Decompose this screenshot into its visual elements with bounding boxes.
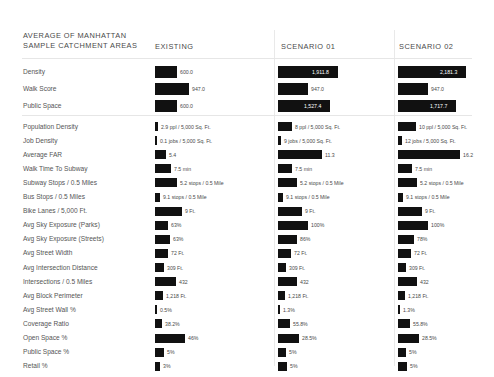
bar-avg-intersection-distance-existing [155,263,164,272]
value-walk-score-scenario-01: 947.0 [311,86,324,92]
column-header-scenario-02: SCENARIO 02 [399,42,453,51]
page-title: AVERAGE OF MANHATTAN SAMPLE CATCHMENT AR… [23,31,153,52]
bar-population-density-scenario-02 [398,122,416,131]
row-label-walk-score: Walk Score [23,85,56,92]
section-divider [22,115,472,116]
bar-retail-scenario-01 [278,362,287,371]
value-coverage-ratio-existing: 38.2% [165,321,180,327]
bar-walk-time-to-subway-scenario-01 [278,164,292,173]
value-average-far-scenario-01: 11.3 [325,152,335,158]
bar-avg-block-perimeter-scenario-02 [398,291,405,300]
bar-retail-scenario-02 [398,362,407,371]
value-walk-score-scenario-02: 947.0 [431,86,444,92]
bar-average-far-existing [155,150,166,159]
row-label-job-density: Job Density [23,137,57,144]
bar-avg-sky-exposure-streets-existing [155,235,170,244]
value-bike-lanes-5-000-ft-existing: 9 Ft. [185,208,195,214]
row-label-intersections-0-5-miles: Intersections / 0.5 Miles [23,278,92,285]
value-avg-sky-exposure-parks-existing: 63% [171,222,181,228]
value-open-space-scenario-01: 28.5% [302,335,317,341]
value-avg-street-wall-scenario-02: 1.3% [403,307,415,313]
value-bus-stops-0-5-miles-scenario-02: 9.1 stops / 0.5 Mile [406,194,450,200]
value-walk-time-to-subway-scenario-02: 7.5 min [415,166,432,172]
value-public-space-existing: 600.0 [180,103,193,109]
bar-avg-block-perimeter-existing [155,291,163,300]
value-bike-lanes-5-000-ft-scenario-01: 9 Ft. [305,208,315,214]
bar-open-space-scenario-01 [278,334,299,343]
value-bus-stops-0-5-miles-scenario-01: 9.1 stops / 0.5 Mile [286,194,330,200]
value-bus-stops-0-5-miles-existing: 9.1 stops / 0.5 Mile [163,194,207,200]
value-avg-sky-exposure-streets-existing: 63% [173,236,183,242]
value-coverage-ratio-scenario-01: 55.8% [293,321,308,327]
value-public-space-scenario-02: 1,717.7 [430,103,447,109]
row-label-walk-time-to-subway: Walk Time To Subway [23,165,88,172]
bar-public-space-existing [155,348,164,357]
row-label-avg-street-width: Avg Street Width [23,249,72,256]
value-walk-score-existing: 947.0 [192,86,205,92]
row-label-avg-sky-exposure-parks: Avg Sky Exposure (Parks) [23,221,100,228]
bar-walk-score-existing [155,83,189,95]
infographic-sheet: AVERAGE OF MANHATTAN SAMPLE CATCHMENT AR… [0,0,494,377]
value-open-space-scenario-02: 28.5% [422,335,437,341]
bar-avg-sky-exposure-streets-scenario-02 [398,235,414,244]
bar-avg-sky-exposure-streets-scenario-01 [278,235,297,244]
value-subway-stops-0-5-miles-scenario-02: 5.2 stops / 0.5 Mile [420,180,464,186]
value-intersections-0-5-miles-existing: 432 [179,279,188,285]
bar-public-space-existing [155,100,177,112]
row-label-retail: Retail % [23,362,48,369]
bar-average-far-scenario-01 [278,150,322,159]
row-label-coverage-ratio: Coverage Ratio [23,320,69,327]
bar-avg-intersection-distance-scenario-01 [278,263,286,272]
value-population-density-scenario-01: 8 ppl / 5,000 Sq. Ft. [295,124,340,130]
value-avg-intersection-distance-scenario-01: 309 Ft. [289,265,305,271]
bar-walk-score-scenario-02 [398,83,428,95]
bar-density-scenario-01 [278,66,338,78]
bar-job-density-scenario-01 [278,136,281,145]
value-average-far-existing: 5.4 [169,152,176,158]
value-public-space-scenario-01: 1,527.4 [304,103,321,109]
row-label-avg-sky-exposure-streets: Avg Sky Exposure (Streets) [23,235,104,242]
row-label-average-far: Average FAR [23,151,62,158]
bar-walk-time-to-subway-existing [155,164,171,173]
bar-intersections-0-5-miles-existing [155,277,176,286]
bar-population-density-existing [155,122,158,131]
bar-public-space-scenario-01 [278,348,286,357]
value-walk-time-to-subway-scenario-01: 7.5 min [295,166,312,172]
bar-bus-stops-0-5-miles-scenario-01 [278,193,283,202]
row-label-subway-stops-0-5-miles: Subway Stops / 0.5 Miles [23,179,97,186]
value-avg-intersection-distance-existing: 309 Ft. [167,265,183,271]
value-population-density-existing: 2.9 ppl / 5,000 Sq. Ft. [161,124,211,130]
value-avg-block-perimeter-scenario-02: 1,218 Ft. [408,293,428,299]
bar-population-density-scenario-01 [278,122,292,131]
bar-job-density-existing [155,136,157,145]
row-label-avg-block-perimeter: Avg Block Perimeter [23,292,83,299]
value-subway-stops-0-5-miles-scenario-01: 5.2 stops / 0.5 Mile [300,180,344,186]
value-avg-sky-exposure-streets-scenario-02: 78% [417,236,427,242]
value-retail-scenario-01: 5% [290,363,298,369]
bar-subway-stops-0-5-miles-scenario-01 [278,178,297,187]
bar-average-far-scenario-02 [398,150,460,159]
value-average-far-scenario-02: 16.2 [463,152,473,158]
value-intersections-0-5-miles-scenario-02: 432 [420,279,429,285]
bar-avg-sky-exposure-parks-existing [155,221,168,230]
row-label-open-space: Open Space % [23,334,67,341]
bar-job-density-scenario-02 [398,136,402,145]
value-job-density-scenario-02: 12 jobs / 5,000 Sq. Ft. [405,138,456,144]
value-avg-street-wall-scenario-01: 1.3% [283,307,295,313]
bar-avg-intersection-distance-scenario-02 [398,263,406,272]
row-label-bike-lanes-5-000-ft: Bike Lanes / 5,000 Ft. [23,207,87,214]
bar-density-existing [155,66,177,78]
bar-walk-time-to-subway-scenario-02 [398,164,412,173]
bar-avg-block-perimeter-scenario-01 [278,291,285,300]
value-intersections-0-5-miles-scenario-01: 432 [300,279,309,285]
bar-bike-lanes-5-000-ft-scenario-01 [278,207,302,216]
row-label-avg-street-wall: Avg Street Wall % [23,306,76,313]
bar-bike-lanes-5-000-ft-existing [155,207,182,216]
row-label-avg-intersection-distance: Avg Intersection Distance [23,264,98,271]
bar-coverage-ratio-scenario-01 [278,319,290,328]
bar-avg-street-wall-scenario-02 [398,305,400,314]
value-public-space-scenario-01: 5% [289,349,297,355]
value-avg-sky-exposure-streets-scenario-01: 86% [300,236,310,242]
bar-avg-street-wall-existing [155,305,157,314]
bar-avg-sky-exposure-parks-scenario-01 [278,221,308,230]
